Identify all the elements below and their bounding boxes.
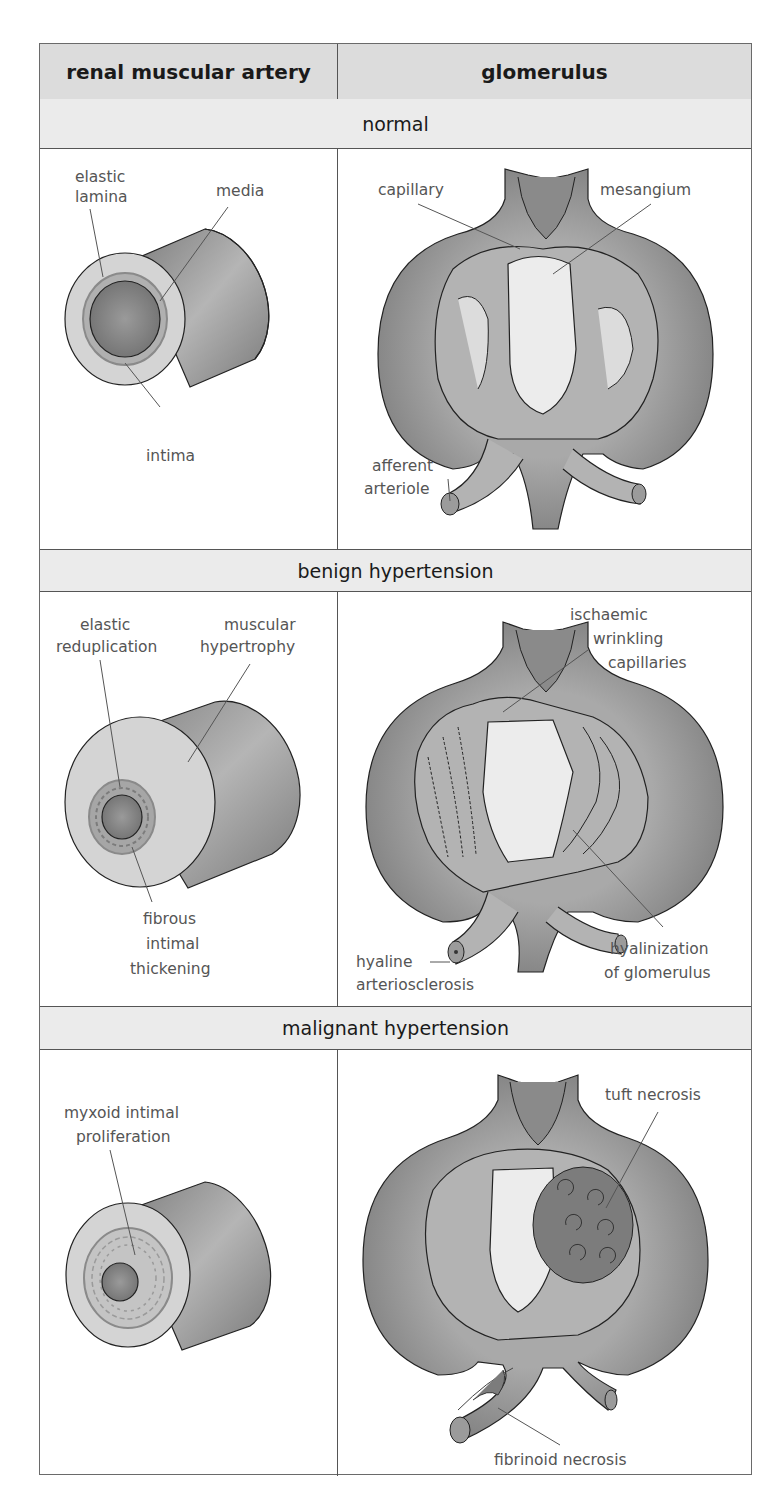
label-tuft-necrosis: tuft necrosis [605,1086,701,1104]
glomerulus-cell-malignant: tuft necrosis fibrinoid necrosis [338,1050,751,1476]
label-reduplication: reduplication [56,638,157,656]
label-intima: intima [146,447,195,465]
section-band-benign: benign hypertension [40,549,751,592]
glomerulus-normal-illustration: capillary mesangium afferent arteriole [338,149,751,549]
artery-cell-malignant: myxoid intimal proliferation [40,1050,338,1476]
label-arteriosclerosis: arteriosclerosis [356,976,474,994]
section-row-normal: elastic lamina media intima [40,149,751,549]
glomerulus-benign-illustration: ischaemic wrinkling capillaries hyaline … [338,592,751,1006]
artery-normal-illustration: elastic lamina media intima [40,149,337,549]
hypertension-kidney-figure: renal muscular artery glomerulus normal [39,43,752,1475]
label-lamina: lamina [75,188,128,206]
artery-cell-normal: elastic lamina media intima [40,149,338,549]
label-muscular: muscular [224,616,296,634]
label-elastic: elastic [75,168,125,186]
table-header: renal muscular artery glomerulus [40,44,751,100]
label-hyalinization: hyalinization [610,940,709,958]
glomerulus-malignant-illustration: tuft necrosis fibrinoid necrosis [338,1050,751,1476]
label-ischaemic: ischaemic [570,606,648,624]
label-thickening: thickening [130,960,210,978]
section-row-benign: elastic reduplication muscular hypertrop… [40,592,751,1006]
glomerulus-cell-normal: capillary mesangium afferent arteriole [338,149,751,549]
label-capillaries: capillaries [608,654,687,672]
label-fibrous: fibrous [143,910,196,928]
artery-benign-illustration: elastic reduplication muscular hypertrop… [40,592,337,1006]
label-media: media [216,182,264,200]
artery-malignant-illustration: myxoid intimal proliferation [40,1050,337,1476]
label-afferent: afferent [372,457,433,475]
label-elastic-2: elastic [80,616,130,634]
label-of-glomerulus: of glomerulus [604,964,711,982]
column-header-glomerulus: glomerulus [338,44,751,99]
label-mesangium: mesangium [600,181,691,199]
glomerulus-cell-benign: ischaemic wrinkling capillaries hyaline … [338,592,751,1006]
label-arteriole: arteriole [364,480,430,498]
label-hyaline: hyaline [356,953,412,971]
label-proliferation: proliferation [76,1128,171,1146]
label-intimal: intimal [146,935,199,953]
section-row-malignant: myxoid intimal proliferation tuft necro [40,1050,751,1476]
label-capillary: capillary [378,181,444,199]
column-header-artery: renal muscular artery [40,44,338,99]
label-fibrinoid-necrosis: fibrinoid necrosis [494,1451,627,1469]
label-myxoid-intimal: myxoid intimal [64,1104,179,1122]
artery-cell-benign: elastic reduplication muscular hypertrop… [40,592,338,1006]
section-band-normal: normal [40,99,751,149]
section-band-malignant: malignant hypertension [40,1006,751,1050]
label-wrinkling: wrinkling [593,630,663,648]
tuft-necrosis-mass [533,1167,633,1283]
label-hypertrophy: hypertrophy [200,638,295,656]
